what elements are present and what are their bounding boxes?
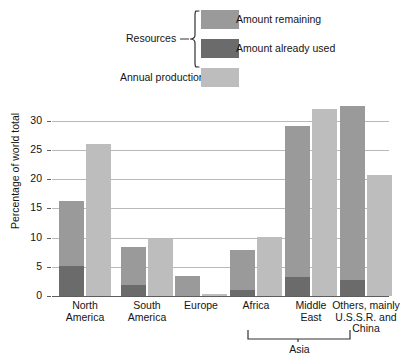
bar-segment-amount-already-used <box>285 277 310 296</box>
y-axis-tick-label: 20 <box>20 172 42 184</box>
legend-item-annual-production[interactable]: Annual production <box>0 68 399 90</box>
x-axis-category-label-line: Others, mainly <box>321 300 405 312</box>
y-axis-tick-label: 10 <box>20 231 42 243</box>
y-axis-tick-mark <box>47 267 51 268</box>
asia-group-bracket-icon <box>247 330 352 343</box>
bar-annual-production <box>367 175 392 296</box>
bar-segment-amount-already-used <box>59 266 84 296</box>
asia-group-label: Asia <box>247 343 352 355</box>
y-axis-title: Percentage of world total <box>9 96 21 246</box>
y-axis-tick-mark <box>47 150 51 151</box>
bar-segment-amount-already-used <box>340 280 365 296</box>
bar-resources <box>285 126 310 296</box>
gridline <box>52 121 389 122</box>
y-axis-tick-mark <box>47 121 51 122</box>
legend-item-amount-remaining[interactable]: Amount remaining <box>0 10 399 32</box>
y-axis-tick-mark <box>47 296 51 297</box>
bar-annual-production <box>86 144 111 296</box>
y-axis-tick-mark <box>47 208 51 209</box>
x-axis-category-label-line: America <box>102 312 192 324</box>
bar-resources <box>230 250 255 296</box>
y-axis-tick-label: 0 <box>20 289 42 301</box>
y-axis-tick-label: 5 <box>20 260 42 272</box>
chart-legend: Resources Amount remaining Amount alread… <box>0 8 399 92</box>
bar-resources <box>340 106 365 296</box>
y-axis-tick-mark <box>47 179 51 180</box>
bar-segment-amount-already-used <box>121 285 146 296</box>
plot-area <box>52 103 389 296</box>
legend-label-amount-remaining: Amount remaining <box>236 10 321 29</box>
y-axis-tick-label: 30 <box>20 114 42 126</box>
legend-swatch-amount-already-used <box>201 39 239 58</box>
legend-item-amount-already-used[interactable]: Amount already used <box>0 39 399 61</box>
bar-annual-production <box>257 237 282 296</box>
legend-swatch-annual-production <box>201 68 239 87</box>
bar-annual-production <box>312 109 337 296</box>
bar-resources <box>121 247 146 296</box>
bar-resources <box>175 276 200 296</box>
y-axis-tick-label: 15 <box>20 201 42 213</box>
x-axis-line <box>52 296 389 297</box>
bar-resources <box>59 201 84 296</box>
legend-swatch-amount-remaining <box>201 10 239 29</box>
bar-annual-production <box>148 239 173 296</box>
y-axis-tick-label: 25 <box>20 143 42 155</box>
legend-label-annual-production: Annual production <box>120 68 205 87</box>
legend-label-amount-already-used: Amount already used <box>236 39 335 58</box>
y-axis-tick-mark <box>47 238 51 239</box>
